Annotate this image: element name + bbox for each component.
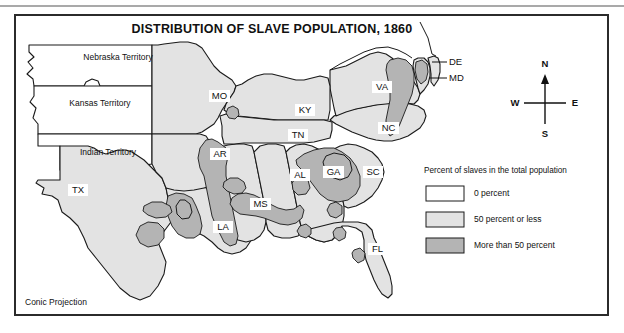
state-label-la: LA bbox=[213, 221, 233, 233]
state-label-fl: FL bbox=[368, 243, 387, 255]
state-label-tx-text: TX bbox=[72, 184, 85, 195]
compass-label-east: E bbox=[572, 97, 578, 108]
state-label-ar-text: AR bbox=[213, 148, 226, 159]
state-label-ky-text: KY bbox=[299, 104, 312, 115]
state-label-ga: GA bbox=[323, 166, 344, 178]
projection-footnote: Conic Projection bbox=[25, 297, 87, 307]
state-label-tx: TX bbox=[68, 184, 88, 196]
region-nebraska-territory bbox=[27, 45, 152, 86]
state-label-sc-text: SC bbox=[366, 166, 379, 177]
patch-texas-coastal-lower bbox=[136, 222, 164, 247]
state-label-ms-text: MS bbox=[253, 198, 267, 209]
state-label-ms: MS bbox=[250, 198, 271, 210]
legend-label-0-percent: 0 percent bbox=[474, 188, 510, 198]
state-label-mo: MO bbox=[209, 90, 230, 102]
state-label-nc-text: NC bbox=[382, 122, 396, 133]
state-label-fl-text: FL bbox=[372, 243, 383, 254]
compass-label-north: N bbox=[542, 58, 549, 69]
legend-label-50-or-less: 50 percent or less bbox=[474, 214, 542, 224]
state-label-al: AL bbox=[290, 169, 310, 181]
patch-missouri-bootheel bbox=[226, 106, 239, 119]
legend-swatch-50-or-less bbox=[426, 212, 464, 227]
label-nebraska-territory: Nebraska Territory bbox=[83, 52, 153, 62]
state-label-va-text: VA bbox=[376, 81, 389, 92]
state-label-va: VA bbox=[372, 81, 392, 93]
state-label-ky: KY bbox=[295, 104, 315, 116]
label-indian-territory: Indian Territory bbox=[80, 147, 137, 157]
state-label-mo-text: MO bbox=[212, 90, 227, 101]
legend-swatch-0-percent bbox=[426, 186, 464, 201]
compass-label-south: S bbox=[542, 128, 548, 139]
distribution-of-slave-population-map: DISTRIBUTION OF SLAVE POPULATION, 1860 bbox=[0, 0, 624, 333]
legend-title: Percent of slaves in the total populatio… bbox=[424, 166, 567, 175]
map-figure: DISTRIBUTION OF SLAVE POPULATION, 1860 bbox=[0, 0, 624, 333]
callout-label-de: DE bbox=[449, 56, 462, 67]
legend-swatch-more-than-50 bbox=[426, 238, 464, 253]
state-label-sc: SC bbox=[363, 166, 383, 178]
state-label-nc: NC bbox=[378, 122, 399, 134]
callout-label-md: MD bbox=[449, 72, 464, 83]
region-kansas-territory bbox=[30, 86, 152, 134]
state-label-tn-text: TN bbox=[292, 129, 305, 140]
compass-label-west: W bbox=[511, 97, 520, 108]
page-title: DISTRIBUTION OF SLAVE POPULATION, 1860 bbox=[132, 22, 413, 36]
state-label-tn: TN bbox=[288, 129, 308, 141]
label-kansas-territory: Kansas Territory bbox=[69, 98, 131, 108]
state-label-ga-text: GA bbox=[327, 166, 341, 177]
state-label-la-text: LA bbox=[217, 221, 229, 232]
state-label-ar: AR bbox=[210, 148, 230, 160]
legend-label-more-than-50: More than 50 percent bbox=[474, 240, 555, 250]
state-label-al-text: AL bbox=[294, 169, 306, 180]
